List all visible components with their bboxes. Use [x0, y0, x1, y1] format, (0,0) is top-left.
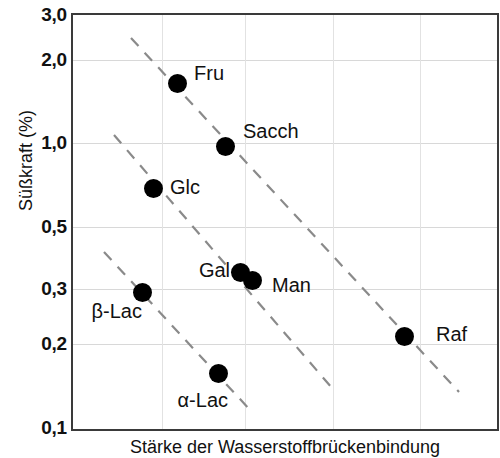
data-label-gal: Gal	[199, 259, 230, 282]
data-point-fru[interactable]	[168, 74, 187, 93]
data-label-fru: Fru	[194, 62, 224, 85]
data-point-alpha-lac[interactable]	[209, 364, 228, 383]
gridline-2-0	[73, 60, 497, 61]
gridline-0-2	[73, 344, 497, 345]
gridline-0-5	[73, 227, 497, 228]
data-label-sacch: Sacch	[243, 120, 299, 143]
data-label-raf: Raf	[436, 323, 467, 346]
data-label-alpha-lac: α-Lac	[178, 389, 228, 412]
data-label-glc: Glc	[170, 176, 200, 199]
data-label-beta-lac: β-Lac	[92, 300, 142, 323]
data-point-glc[interactable]	[144, 179, 163, 198]
gridline-v-4	[420, 15, 421, 429]
y-tick-0-3: 0,3	[5, 278, 67, 300]
y-tick-3-0: 3,0	[5, 4, 67, 26]
plot-area	[71, 13, 499, 431]
data-label-man: Man	[272, 274, 311, 297]
gridline-1-0	[73, 143, 497, 144]
data-point-raf[interactable]	[395, 327, 414, 346]
y-axis-title: Süßkraft (%)	[16, 51, 37, 271]
y-tick-0-2: 0,2	[5, 333, 67, 355]
y-tick-0-1: 0,1	[5, 417, 67, 439]
gridline-v-1	[162, 15, 163, 429]
gridline-v-2	[245, 15, 246, 429]
data-point-man[interactable]	[243, 271, 262, 290]
data-point-sacch[interactable]	[216, 137, 235, 156]
gridline-v-3	[333, 15, 334, 429]
x-axis-title: Stärke der Wasserstoffbrückenbindung	[71, 437, 499, 458]
